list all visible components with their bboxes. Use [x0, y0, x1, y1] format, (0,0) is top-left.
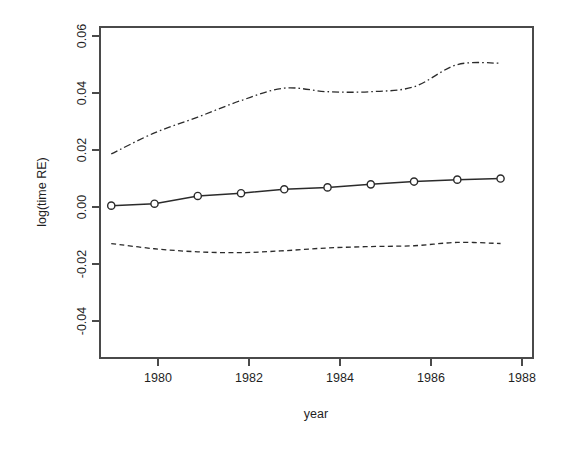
y-axis-tick-labels: 0.06 0.04 0.02 0.00 -0.02 -0.04	[75, 24, 89, 335]
data-series-layer	[108, 62, 505, 252]
y-tick-label: -0.02	[75, 250, 89, 279]
x-tick-label: 1982	[235, 371, 263, 385]
data-point-marker	[151, 200, 158, 207]
series-line-estimate	[111, 179, 500, 206]
x-axis-tick-labels: 1980 1982 1984 1986 1988	[144, 371, 536, 385]
x-tick-label: 1984	[326, 371, 354, 385]
chart-canvas: 0.06 0.04 0.02 0.00 -0.02 -0.04 log(time…	[0, 0, 566, 451]
data-point-marker	[324, 184, 331, 191]
x-tick-label: 1980	[144, 371, 172, 385]
series-line-lower-band	[111, 242, 500, 252]
y-tick-label: 0.02	[75, 138, 89, 162]
data-point-marker	[281, 186, 288, 193]
y-tick-label: 0.00	[75, 195, 89, 219]
y-axis-title: log(time RE)	[35, 157, 49, 226]
data-point-marker	[497, 175, 504, 182]
series-line-upper-band	[111, 62, 500, 153]
chart-figure: 0.06 0.04 0.02 0.00 -0.02 -0.04 log(time…	[0, 0, 566, 451]
data-point-marker	[454, 176, 461, 183]
data-point-marker	[410, 178, 417, 185]
data-point-marker	[108, 202, 115, 209]
y-tick-label: -0.04	[75, 307, 89, 336]
x-axis-title: year	[304, 407, 328, 421]
x-tick-label: 1986	[417, 371, 445, 385]
data-point-marker	[237, 190, 244, 197]
y-tick-label: 0.04	[75, 81, 89, 105]
x-axis-ticks	[158, 358, 522, 366]
plot-frame	[100, 27, 533, 358]
data-point-marker	[194, 192, 201, 199]
x-tick-label: 1988	[508, 371, 536, 385]
data-point-marker	[367, 181, 374, 188]
y-axis-ticks	[92, 36, 100, 321]
y-tick-label: 0.06	[75, 24, 89, 48]
